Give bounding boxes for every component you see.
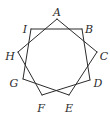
vertex-label-f: F <box>36 102 45 115</box>
vertex-label-e: E <box>64 102 73 115</box>
vertex-label-d: D <box>93 77 103 90</box>
vertex-label-a: A <box>52 6 61 19</box>
star-polygon-diagram: ABCDEFGHI <box>0 0 110 115</box>
vertex-label-i: I <box>22 23 28 36</box>
vertex-label-b: B <box>84 23 93 36</box>
edge-g-i <box>23 29 31 79</box>
vertex-labels: ABCDEFGHI <box>4 6 109 115</box>
edge-d-f <box>42 80 90 95</box>
edge-f-h <box>18 52 42 95</box>
vertex-label-c: C <box>100 50 109 63</box>
edge-e-g <box>23 79 69 95</box>
vertex-label-h: H <box>4 50 15 63</box>
vertex-label-g: G <box>10 77 19 90</box>
